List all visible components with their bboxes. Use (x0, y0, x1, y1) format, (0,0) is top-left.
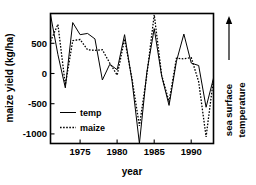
legend-label-temp: temp (80, 108, 102, 118)
y-tick-label-minus1000: -1000 (23, 128, 47, 139)
x-tick-label-1980: 1980 (107, 146, 128, 157)
right-axis-title-line1: sea surface (223, 84, 234, 136)
y-tick-label-minus500: -500 (28, 98, 47, 109)
y-tick-label-0: 0 (42, 68, 47, 79)
y-tick-label-500: 500 (31, 38, 47, 49)
line-chart: 500 0 -500 -1000 1975 1980 1985 1990 yea… (0, 0, 256, 185)
legend-label-maize: maize (80, 123, 105, 133)
series-line-temp (51, 15, 214, 144)
chart-legend: temp maize (60, 108, 105, 133)
x-axis-title: year (122, 166, 143, 177)
series-line-maize (51, 15, 214, 137)
x-tick-label-1985: 1985 (144, 146, 166, 157)
chart-figure: 500 0 -500 -1000 1975 1980 1985 1990 yea… (0, 0, 256, 185)
x-tick-label-1975: 1975 (70, 146, 92, 157)
right-axis-title-line2: temperature (236, 83, 247, 138)
right-axis-annotation: sea surface temperature (223, 16, 247, 137)
x-tick-label-1990: 1990 (181, 146, 202, 157)
y-axis-title: maize yield (kg/ha) (4, 34, 15, 123)
up-arrow-icon (226, 16, 232, 24)
